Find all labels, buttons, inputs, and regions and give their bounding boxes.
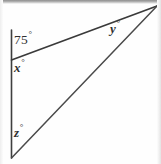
- angle-label-y: y°: [110, 20, 120, 36]
- upper-transversal-line: [12, 6, 158, 60]
- angle-label-z: z°: [14, 124, 23, 140]
- angle-label-x-value: x: [14, 60, 21, 75]
- angle-label-75: 75°: [14, 31, 32, 47]
- degree-icon: °: [20, 122, 24, 132]
- lower-side-line: [12, 6, 158, 158]
- angle-label-x: x°: [14, 59, 25, 75]
- degree-icon: °: [28, 29, 32, 39]
- geometry-figure: 75° x° y° z°: [0, 0, 161, 164]
- angle-label-z-value: z: [14, 125, 19, 140]
- degree-icon: °: [21, 57, 25, 67]
- figure-canvas: [0, 0, 161, 164]
- angle-label-75-value: 75: [14, 32, 28, 47]
- degree-icon: °: [116, 18, 120, 28]
